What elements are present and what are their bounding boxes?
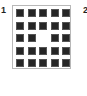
grid-cell-filled xyxy=(51,47,59,55)
grid-cell-filled xyxy=(28,9,36,17)
grid-frame xyxy=(12,5,71,69)
grid-cell-filled xyxy=(39,47,47,55)
grid-cell-filled xyxy=(39,59,47,67)
grid-cell-empty xyxy=(39,34,47,42)
grid-cell-filled xyxy=(28,47,36,55)
grid-cell-filled xyxy=(51,34,59,42)
grid-cell-filled xyxy=(51,59,59,67)
grid-cell-filled xyxy=(28,34,36,42)
grid-cell-filled xyxy=(39,22,47,30)
grid-cell-filled xyxy=(51,9,59,17)
grid-cell-filled xyxy=(28,59,36,67)
grid-cell-filled xyxy=(51,22,59,30)
panel-label-2: 2 xyxy=(83,5,87,15)
grid-cell-filled xyxy=(62,34,70,42)
grid-cell-filled xyxy=(62,47,70,55)
grid-cell-filled xyxy=(62,22,70,30)
grid-cell-filled xyxy=(16,9,24,17)
grid-cell-filled xyxy=(16,59,24,67)
grid-cell-filled xyxy=(28,22,36,30)
grid-cell-filled xyxy=(16,47,24,55)
grid-cell-filled xyxy=(62,9,70,17)
dot-grid xyxy=(16,9,70,67)
panel-label-1: 1 xyxy=(1,5,6,15)
grid-cell-filled xyxy=(16,22,24,30)
grid-cell-filled xyxy=(16,34,24,42)
grid-cell-filled xyxy=(39,9,47,17)
grid-cell-filled xyxy=(62,59,70,67)
